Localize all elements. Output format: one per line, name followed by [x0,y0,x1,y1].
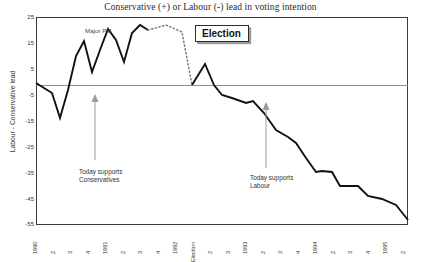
x-tick-label: 3 [277,251,283,254]
annotation-major-pm: Major PM [85,27,111,34]
chart-canvas: Conservative (+) or Labour (-) lead in v… [0,0,421,262]
y-axis-ticks: 25 15 5 -5 -15 -25 -35 -45 -55 [0,0,34,262]
annotation-line-1: Today supports [250,174,293,182]
annotation-election-box: Election [195,25,249,42]
annotation-line-2: Conservatives [79,176,122,184]
x-tick-label: 1993 [242,242,248,254]
x-tick-label: 4 [295,251,301,254]
y-tick-label: -55 [8,221,34,227]
x-tick-label: 4 [155,251,161,254]
y-tick-label: -15 [8,118,34,124]
x-tick-label: 2 [330,251,336,254]
zero-reference-line [36,85,408,86]
x-tick-label: 3 [347,251,353,254]
x-tick-label: 2 [120,251,126,254]
y-tick-label: 25 [8,14,34,20]
x-tick-label: 1994 [312,242,318,254]
annotation-today-conservatives: Today supports Conservatives [79,168,122,184]
x-tick-label: 3 [67,251,73,254]
y-tick-label: -45 [8,196,34,202]
x-tick-label: 3 [225,251,231,254]
y-tick-label: -35 [8,170,34,176]
x-tick-label: 4 [365,251,371,254]
chart-title: Conservative (+) or Labour (-) lead in v… [0,2,421,12]
y-tick-label: -5 [8,92,34,98]
x-tick-label: 2 [260,251,266,254]
x-tick-label: 1992 [172,242,178,254]
x-tick-label: 1991 [102,242,108,254]
x-tick-label: 2 [400,251,406,254]
x-tick-label: 2 [207,251,213,254]
x-tick-label: Election [190,242,196,262]
annotation-line-2: Labour [250,182,293,190]
x-tick-label: 4 [85,251,91,254]
y-tick-label: 15 [8,40,34,46]
y-tick-label: -25 [8,144,34,150]
x-tick-label: 2 [50,251,56,254]
x-tick-label: 3 [137,251,143,254]
x-tick-label: 1990 [32,242,38,254]
annotation-today-labour: Today supports Labour [250,174,293,190]
x-axis-ticks: 199023419912341992Election23199323419942… [0,228,421,262]
y-tick-label: 5 [8,66,34,72]
annotation-line-1: Today supports [79,168,122,176]
x-tick-label: 1995 [382,242,388,254]
plot-area [36,17,408,225]
